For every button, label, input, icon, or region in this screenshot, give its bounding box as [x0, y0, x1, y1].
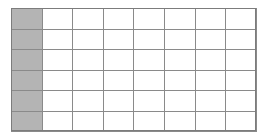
grid-cell[interactable]	[103, 70, 134, 91]
grid-cell[interactable]	[226, 9, 257, 30]
grid-cell[interactable]	[42, 9, 73, 30]
grid-cell[interactable]	[226, 29, 257, 50]
grid-row	[12, 91, 257, 112]
grid-cell[interactable]	[134, 50, 165, 71]
grid	[11, 8, 257, 132]
grid-cell[interactable]	[195, 29, 226, 50]
grid-cell[interactable]	[103, 29, 134, 50]
grid-cell[interactable]	[42, 111, 73, 132]
grid-cell[interactable]	[134, 29, 165, 50]
grid-cell[interactable]	[12, 29, 43, 50]
grid-cell[interactable]	[73, 50, 104, 71]
grid-cell[interactable]	[134, 70, 165, 91]
grid-cell[interactable]	[42, 91, 73, 112]
grid-cell[interactable]	[164, 50, 195, 71]
grid-cell[interactable]	[73, 9, 104, 30]
grid-cell[interactable]	[12, 111, 43, 132]
grid-cell[interactable]	[226, 91, 257, 112]
grid-cell[interactable]	[73, 70, 104, 91]
grid-cell[interactable]	[42, 70, 73, 91]
grid-cell[interactable]	[226, 70, 257, 91]
grid-cell[interactable]	[103, 111, 134, 132]
grid-cell[interactable]	[195, 70, 226, 91]
grid-cell[interactable]	[164, 111, 195, 132]
grid-cell[interactable]	[42, 50, 73, 71]
grid-row	[12, 29, 257, 50]
grid-row	[12, 70, 257, 91]
grid-cell[interactable]	[134, 9, 165, 30]
grid-cell[interactable]	[73, 111, 104, 132]
grid-cell[interactable]	[103, 91, 134, 112]
grid-cell[interactable]	[164, 70, 195, 91]
grid-cell[interactable]	[134, 91, 165, 112]
diagram-canvas	[0, 0, 266, 139]
grid-cell[interactable]	[42, 29, 73, 50]
grid-cell[interactable]	[12, 91, 43, 112]
grid-cell[interactable]	[195, 91, 226, 112]
grid-cell[interactable]	[134, 111, 165, 132]
grid-cell[interactable]	[12, 50, 43, 71]
grid-cell[interactable]	[73, 29, 104, 50]
grid-cell[interactable]	[226, 50, 257, 71]
grid-body	[12, 9, 257, 132]
grid-cell[interactable]	[195, 50, 226, 71]
grid-cell[interactable]	[103, 50, 134, 71]
grid-cell[interactable]	[195, 111, 226, 132]
grid-row	[12, 111, 257, 132]
grid-cell[interactable]	[226, 111, 257, 132]
grid-cell[interactable]	[12, 70, 43, 91]
grid-cell[interactable]	[103, 9, 134, 30]
grid-cell[interactable]	[195, 9, 226, 30]
grid-cell[interactable]	[164, 9, 195, 30]
grid-cell[interactable]	[164, 91, 195, 112]
grid-row	[12, 50, 257, 71]
grid-row	[12, 9, 257, 30]
grid-cell[interactable]	[12, 9, 43, 30]
grid-cell[interactable]	[164, 29, 195, 50]
grid-cell[interactable]	[73, 91, 104, 112]
